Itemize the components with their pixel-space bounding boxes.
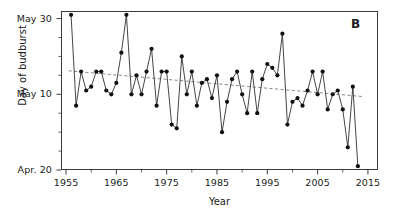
data-point <box>250 69 254 73</box>
data-point <box>109 92 113 96</box>
figure-panel-b: Day of budburst May 30May 10Apr. 20 1955… <box>0 0 393 218</box>
data-point <box>230 77 234 81</box>
data-point <box>280 32 284 36</box>
data-point <box>104 88 108 92</box>
data-point <box>305 88 309 92</box>
y-axis-tick-label: May 10 <box>0 88 52 99</box>
data-point <box>326 107 330 111</box>
y-axis-major-ticks <box>57 19 62 170</box>
data-point <box>165 69 169 73</box>
x-axis-tick-label: 1965 <box>94 177 138 188</box>
data-point <box>200 81 204 85</box>
data-point <box>134 73 138 77</box>
data-point <box>260 77 264 81</box>
data-point <box>240 92 244 96</box>
data-point <box>290 100 294 104</box>
data-point <box>160 69 164 73</box>
data-point <box>149 47 153 51</box>
data-point <box>356 164 360 168</box>
data-point <box>139 92 143 96</box>
data-point <box>220 130 224 134</box>
data-point <box>295 96 299 100</box>
x-axis-tick-label: 1975 <box>145 177 189 188</box>
data-point <box>99 69 103 73</box>
data-point <box>346 145 350 149</box>
data-point <box>129 92 133 96</box>
data-point <box>195 104 199 108</box>
data-point <box>255 111 259 115</box>
x-axis-tick-label: 1955 <box>44 177 88 188</box>
data-point <box>124 13 128 17</box>
data-point <box>336 88 340 92</box>
data-point <box>321 69 325 73</box>
data-point <box>310 69 314 73</box>
data-point <box>114 81 118 85</box>
data-point <box>74 104 78 108</box>
series-line-day-of-budburst <box>71 15 358 166</box>
data-point <box>265 62 269 66</box>
x-axis-title: Year <box>61 196 378 207</box>
data-point <box>225 100 229 104</box>
data-point <box>210 96 214 100</box>
data-point <box>235 69 239 73</box>
x-axis-tick-label: 1985 <box>195 177 239 188</box>
data-point <box>119 51 123 55</box>
data-point <box>351 85 355 89</box>
data-point <box>144 69 148 73</box>
x-axis-tick-label: 2005 <box>296 177 340 188</box>
data-point <box>89 85 93 89</box>
data-point <box>331 92 335 96</box>
data-point <box>190 69 194 73</box>
y-axis-tick-label: Apr. 20 <box>0 164 52 175</box>
data-point <box>170 122 174 126</box>
data-point <box>270 66 274 70</box>
data-point <box>94 69 98 73</box>
x-axis-tick-label: 1995 <box>245 177 289 188</box>
data-point <box>69 13 73 17</box>
x-axis-major-ticks <box>66 170 368 175</box>
panel-label: B <box>351 17 360 31</box>
data-point <box>175 126 179 130</box>
data-point <box>245 111 249 115</box>
data-point <box>84 88 88 92</box>
x-axis-tick-label: 2015 <box>346 177 390 188</box>
data-point <box>185 92 189 96</box>
data-point <box>316 92 320 96</box>
data-point <box>215 73 219 77</box>
data-point <box>155 104 159 108</box>
data-point <box>180 54 184 58</box>
data-point <box>205 77 209 81</box>
y-axis-tick-label: May 30 <box>0 13 52 24</box>
data-point <box>275 73 279 77</box>
data-point <box>285 122 289 126</box>
data-point <box>341 107 345 111</box>
data-point <box>79 69 83 73</box>
data-point <box>300 104 304 108</box>
